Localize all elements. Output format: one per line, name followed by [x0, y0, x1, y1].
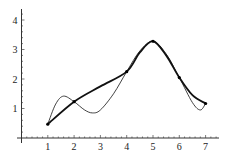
x-tick-label: 7 [203, 141, 208, 152]
y-tick-label: 3 [13, 44, 18, 55]
x-tick-label: 4 [124, 141, 129, 152]
curves [48, 41, 206, 124]
y-tick-label: 2 [13, 74, 18, 85]
data-point [46, 123, 49, 126]
polynomial-curve [48, 41, 206, 124]
data-point [204, 102, 207, 105]
y-tick-label: 4 [13, 15, 18, 26]
axes: 12345671234 [13, 9, 220, 152]
x-tick-label: 3 [98, 141, 103, 152]
chart: 12345671234 [0, 0, 227, 165]
x-tick-label: 2 [72, 141, 77, 152]
data-point [73, 100, 76, 103]
data-point [151, 40, 154, 43]
x-tick-label: 1 [45, 141, 50, 152]
x-tick-label: 5 [151, 141, 156, 152]
data-point [178, 76, 181, 79]
data-point [125, 70, 128, 73]
x-tick-label: 6 [177, 141, 182, 152]
y-tick-label: 1 [13, 103, 18, 114]
